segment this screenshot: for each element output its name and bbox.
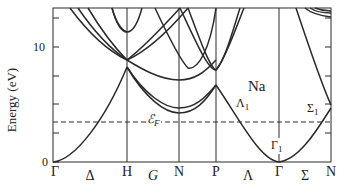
- k-label-gamma: Γ: [275, 164, 283, 180]
- lambda1-label: Λ1: [236, 96, 249, 112]
- fermi-symbol: ℰ: [147, 112, 154, 126]
- k-label-lambda: Λ: [243, 168, 253, 184]
- gamma1-label: Γ1: [271, 138, 282, 154]
- fermi-label: ℰF: [146, 112, 161, 128]
- y-axis-label: Energy (eV): [4, 68, 20, 132]
- fermi-subscript: F: [154, 118, 160, 128]
- y-tick-0: 0: [42, 155, 48, 170]
- y-ticks: [53, 18, 331, 162]
- energy-bands: [53, 8, 331, 162]
- k-label-sigma: Σ: [301, 168, 309, 184]
- y-tick-10: 10: [33, 40, 45, 55]
- material-label: Na: [248, 78, 266, 95]
- k-label-n-end: N: [326, 164, 336, 180]
- k-label-h: H: [122, 164, 132, 180]
- k-label-p: P: [212, 164, 220, 180]
- k-label-g: G: [148, 168, 158, 184]
- k-label-delta: Δ: [85, 168, 94, 184]
- sigma1-label: Σ1: [307, 101, 318, 117]
- k-label-gamma-start: Γ: [51, 164, 59, 180]
- band-structure-plot: [0, 0, 351, 189]
- k-label-n: N: [174, 164, 184, 180]
